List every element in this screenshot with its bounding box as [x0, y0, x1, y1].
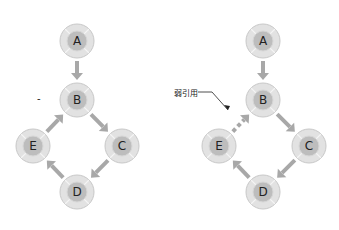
weak-reference-label: 弱引用: [174, 87, 198, 98]
node-B-right: B: [246, 83, 280, 117]
edge-E-B-left: [47, 114, 63, 131]
edge-D-E-right: [233, 160, 249, 177]
node-A-left: A: [60, 24, 94, 58]
node-D-left: D: [60, 175, 94, 209]
edges-layer: [47, 61, 295, 178]
node-label: B: [259, 93, 267, 107]
node-label: A: [73, 34, 82, 48]
edge-C-D-right: [277, 160, 295, 178]
node-label: E: [215, 139, 223, 153]
node-B-left: B: [60, 83, 94, 117]
edge-B-C-right: [277, 114, 295, 132]
node-label: E: [29, 139, 37, 153]
node-label: B: [73, 93, 81, 107]
node-label: C: [118, 139, 126, 153]
node-D-right: D: [246, 175, 280, 209]
annotation-leader-line: [198, 92, 228, 110]
diagram-canvas: ABCDEABCDE: [0, 0, 339, 230]
left-marker: -: [37, 93, 41, 104]
node-E-left: E: [16, 129, 50, 163]
edge-D-E-left: [47, 160, 63, 177]
annotation-layer: [198, 92, 230, 110]
node-label: A: [259, 34, 268, 48]
node-label: D: [258, 185, 267, 199]
node-label: D: [72, 185, 81, 199]
node-C-left: C: [105, 129, 139, 163]
edge-E-B-right: [233, 114, 249, 131]
edge-C-D-left: [91, 160, 108, 177]
node-E-right: E: [202, 129, 236, 163]
edge-B-C-left: [91, 114, 108, 131]
edge-A-B-left: [71, 61, 83, 80]
edge-A-B-right: [257, 61, 269, 80]
node-A-right: A: [246, 24, 280, 58]
node-label: C: [305, 139, 313, 153]
node-C-right: C: [292, 129, 326, 163]
